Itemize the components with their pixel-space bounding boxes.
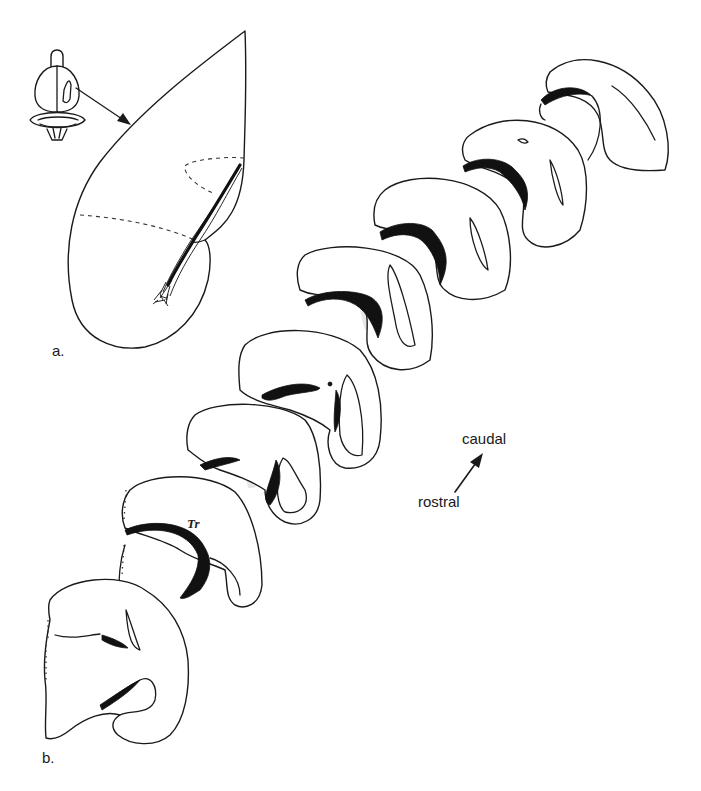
orientation-arrow-icon — [455, 453, 483, 492]
rostral-label: rostral — [418, 493, 460, 510]
brain-inset-icon — [30, 50, 85, 140]
panel-a — [30, 31, 246, 348]
figure-canvas — [0, 0, 701, 791]
tract-region-label: Tr — [187, 516, 200, 532]
panel-a-label: a. — [52, 342, 65, 359]
caudal-label: caudal — [462, 430, 506, 447]
section-1 — [44, 579, 188, 743]
panel-b-label: b. — [42, 749, 55, 766]
